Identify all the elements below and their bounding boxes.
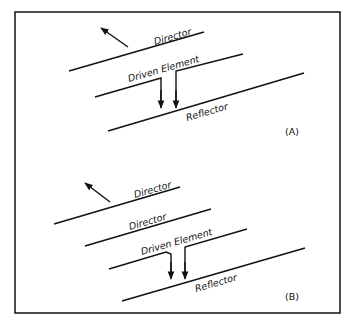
yagi-diagram: Director Driven Element Reflector (A) Di… <box>0 0 351 323</box>
panel-tag: (A) <box>285 126 299 137</box>
figure-frame <box>15 12 340 313</box>
director-label-1: Director <box>133 178 174 199</box>
direction-arrow-icon <box>101 28 128 47</box>
director-label-2: Director <box>128 210 169 231</box>
reflector-element <box>108 73 304 131</box>
panel-b: Director Director Driven Element Reflect… <box>54 178 305 302</box>
driven-element-label: Driven Element <box>127 53 202 84</box>
reflector-label: Reflector <box>185 100 231 123</box>
driven-element-left <box>109 252 171 274</box>
reflector-element <box>122 248 305 301</box>
panel-a: Director Driven Element Reflector (A) <box>69 25 304 137</box>
reflector-label: Reflector <box>194 271 240 294</box>
panel-tag: (B) <box>285 291 299 302</box>
direction-arrow-icon <box>85 183 110 202</box>
director-label: Director <box>153 25 194 46</box>
